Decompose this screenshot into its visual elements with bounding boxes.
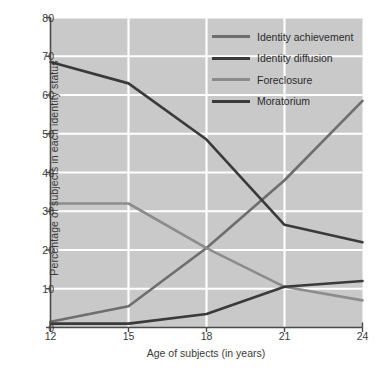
legend-item-label: Identity achievement (257, 31, 353, 43)
legend-item: Foreclosure (212, 69, 372, 91)
x-tick-label: 24 (357, 330, 369, 342)
y-tick-label: 10 (28, 283, 54, 295)
x-tick-label: 21 (279, 330, 291, 342)
legend-line-swatch-icon (212, 57, 250, 60)
y-tick-label: 80 (28, 12, 54, 24)
x-axis-title: Age of subjects (in years) (50, 347, 362, 359)
legend-item: Identity diffusion (212, 48, 372, 70)
legend-line-swatch-icon (212, 35, 250, 38)
legend-item-label: Moratorium (257, 95, 310, 107)
y-tick-label: 70 (28, 50, 54, 62)
y-tick-label: 30 (28, 205, 54, 217)
y-tick-label: 50 (28, 128, 54, 140)
x-tick-label: 18 (201, 330, 213, 342)
y-tick-label: 40 (28, 167, 54, 179)
x-tick-label: 12 (45, 330, 57, 342)
legend-item: Moratorium (212, 91, 372, 113)
legend-line-swatch-icon (212, 78, 250, 81)
legend-item-label: Foreclosure (257, 74, 312, 86)
y-tick-label: 60 (28, 89, 54, 101)
y-tick-label: 20 (28, 244, 54, 256)
x-tick-label: 15 (123, 330, 135, 342)
legend-line-swatch-icon (212, 100, 250, 103)
chart-legend: Identity achievementIdentity diffusionFo… (212, 26, 372, 112)
legend-item: Identity achievement (212, 26, 372, 48)
chart-figure: Percentage of subjects in each identity … (0, 0, 380, 372)
legend-item-label: Identity diffusion (257, 52, 333, 64)
